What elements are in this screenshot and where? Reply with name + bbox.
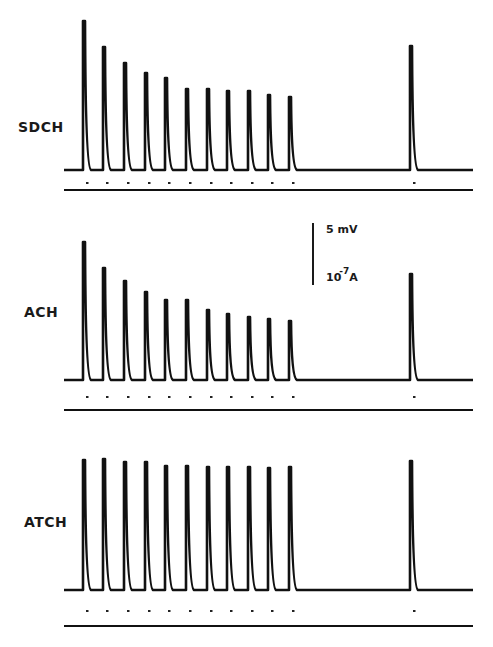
trace-ach <box>64 242 473 380</box>
figure: SDCH ACH ATCH 5 mV 10-7A <box>0 0 493 647</box>
trace-plot <box>0 0 493 647</box>
stimulus-marker <box>189 610 192 612</box>
stimulus-marker <box>168 182 171 184</box>
stimulus-marker <box>251 396 254 398</box>
scale-bar-line <box>312 223 314 285</box>
stimulus-marker <box>127 610 130 612</box>
stimulus-marker <box>292 182 295 184</box>
stimulus-marker <box>86 182 89 184</box>
stimulus-marker <box>413 182 416 184</box>
stimulus-marker <box>210 396 213 398</box>
stimulus-marker <box>86 610 89 612</box>
stimulus-marker <box>413 396 416 398</box>
stimulus-marker <box>148 396 151 398</box>
panel-label-sdch: SDCH <box>18 119 64 135</box>
stimulus-marker <box>148 182 151 184</box>
stimulus-marker <box>251 182 254 184</box>
stimulus-marker <box>210 610 213 612</box>
panel-label-atch: ATCH <box>24 514 67 530</box>
stimulus-marker <box>148 610 151 612</box>
stimulus-marker <box>106 396 109 398</box>
stimulus-marker <box>86 396 89 398</box>
stimulus-marker <box>230 396 233 398</box>
stimulus-marker <box>292 396 295 398</box>
stimulus-marker <box>271 610 274 612</box>
stimulus-marker <box>189 396 192 398</box>
scale-current-exponent: -7 <box>339 266 349 276</box>
trace-atch <box>64 459 473 590</box>
stimulus-marker <box>106 610 109 612</box>
stimulus-marker <box>271 396 274 398</box>
stimulus-marker <box>189 182 192 184</box>
stimulus-marker <box>292 610 295 612</box>
stimulus-marker <box>230 610 233 612</box>
stimulus-marker <box>127 396 130 398</box>
stimulus-marker <box>413 610 416 612</box>
scale-current-label: 10-7A <box>326 268 358 284</box>
scale-voltage-label: 5 mV <box>326 223 357 236</box>
stimulus-marker <box>210 182 213 184</box>
stimulus-marker <box>251 610 254 612</box>
stimulus-marker <box>271 182 274 184</box>
stimulus-marker <box>106 182 109 184</box>
panel-label-ach: ACH <box>24 304 58 320</box>
stimulus-marker <box>127 182 130 184</box>
scale-current-unit: A <box>349 271 358 284</box>
stimulus-marker <box>168 610 171 612</box>
trace-sdch <box>64 21 473 170</box>
stimulus-marker <box>168 396 171 398</box>
stimulus-marker <box>230 182 233 184</box>
